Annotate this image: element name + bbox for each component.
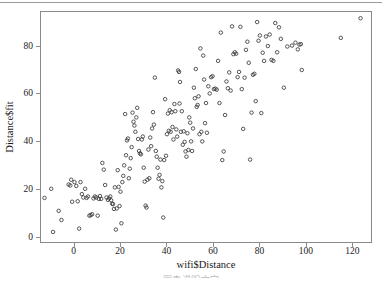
- figure-caption: 图表说明文字: [163, 273, 220, 281]
- x-tick-label: 0: [71, 246, 76, 256]
- y-tick: [36, 141, 40, 142]
- plot-frame: [40, 11, 372, 243]
- x-tick-label: 40: [162, 246, 172, 256]
- x-tick-label: 20: [115, 246, 125, 256]
- y-tick-label: 80: [24, 41, 34, 51]
- y-axis-title: Distance$fit: [4, 101, 15, 152]
- y-tick: [36, 237, 40, 238]
- y-tick-label: 60: [24, 88, 34, 98]
- x-tick-label: 120: [345, 246, 359, 256]
- figure-page: 020406080100120 020406080 wifi$Distance …: [0, 0, 382, 281]
- y-tick: [36, 189, 40, 190]
- y-tick-label: 20: [24, 184, 34, 194]
- y-tick-label: 40: [24, 136, 34, 146]
- y-tick-label: 0: [28, 232, 33, 242]
- x-axis-title: wifi$Distance: [177, 259, 236, 270]
- y-tick: [36, 46, 40, 47]
- x-tick-label: 80: [255, 246, 265, 256]
- x-tick-label: 100: [299, 246, 313, 256]
- x-tick-label: 60: [208, 246, 218, 256]
- y-tick: [36, 93, 40, 94]
- page-top-rule: [0, 2, 382, 3]
